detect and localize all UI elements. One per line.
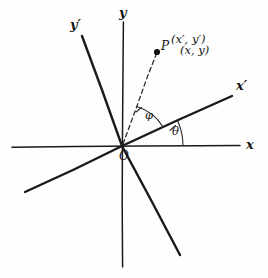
x-prime-axis-line — [25, 96, 232, 192]
point-p-name-label: P — [161, 40, 169, 53]
y-prime-axis-label: y′ — [70, 18, 81, 32]
x-axis-line — [12, 146, 240, 148]
point-p-coordinates: (x′, y′) (x, y) — [171, 33, 209, 56]
figure-canvas — [0, 0, 268, 278]
origin-to-point-ray — [123, 55, 156, 144]
y-axis-label: y — [119, 6, 127, 20]
x-prime-axis-label: x′ — [236, 79, 247, 93]
point-p-marker — [154, 49, 160, 55]
theta-angle-label: θ — [172, 125, 179, 137]
x-axis-label: x — [246, 138, 254, 152]
origin-label: O — [119, 150, 129, 163]
phi-angle-label: φ — [145, 109, 153, 121]
point-p-unprimed-coords: (x, y) — [180, 44, 209, 56]
coordinate-rotation-figure: y′ y x′ x O θ φ P (x′, y′) (x, y) — [0, 0, 268, 278]
